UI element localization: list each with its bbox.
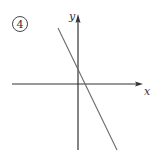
- x-axis: x: [12, 82, 151, 99]
- x-axis-label: x: [144, 85, 151, 98]
- figure-number: 4: [17, 18, 24, 31]
- y-axis-label: y: [68, 10, 76, 23]
- circled-number-label: 4: [13, 17, 28, 32]
- y-axis: y: [68, 10, 81, 150]
- graph-line: [58, 28, 117, 150]
- graph-figure: 4 x y: [0, 0, 153, 153]
